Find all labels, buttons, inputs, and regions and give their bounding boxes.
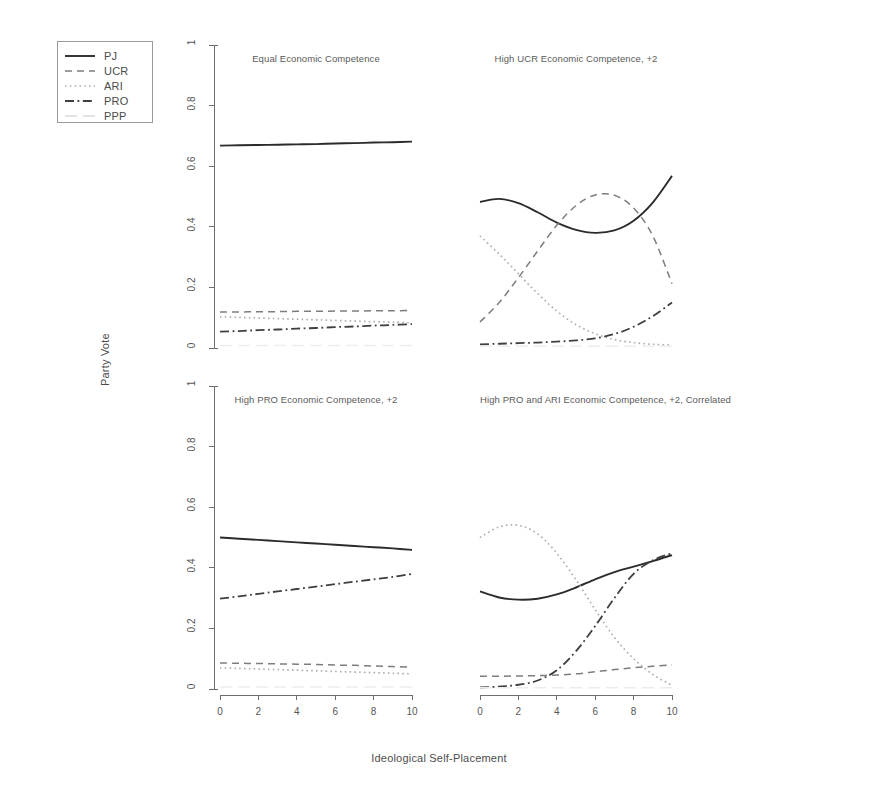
y-tick-label: 0.8 <box>186 431 197 457</box>
x-tick-label: 8 <box>620 706 648 717</box>
series-line-pj <box>480 176 672 233</box>
y-axis-label: Party Vote <box>99 333 111 386</box>
legend-item-ari: ARI <box>58 78 154 94</box>
x-tick-label: 10 <box>658 706 686 717</box>
series-line-ari <box>480 525 672 686</box>
legend-item-label: PPP <box>104 111 127 122</box>
series-line-pj <box>220 538 412 550</box>
plot-area <box>480 386 672 689</box>
series-line-ucr <box>480 665 672 677</box>
legend-line-icon <box>63 49 97 63</box>
plot-area <box>220 386 412 689</box>
legend-item-pj: PJ <box>58 48 154 64</box>
x-axis-label: Ideological Self-Placement <box>0 752 878 764</box>
series-line-pj <box>220 142 412 146</box>
series-line-pro <box>220 574 412 599</box>
y-axis <box>204 45 220 348</box>
series-line-pro <box>480 553 672 687</box>
legend-item-label: PJ <box>104 51 117 62</box>
panel-title: High PRO Economic Competence, +2 <box>220 394 412 405</box>
series-line-pro <box>480 303 672 345</box>
legend-line-icon <box>63 64 97 78</box>
y-tick-label: 1 <box>186 30 197 56</box>
plot-area <box>220 45 412 348</box>
figure-root: PJUCRARIPROPPP Equal Economic Competence… <box>0 0 878 795</box>
legend: PJUCRARIPROPPP <box>57 41 153 123</box>
legend-item-label: ARI <box>104 81 123 92</box>
chart-panel-3: High PRO Economic Competence, +2 <box>220 386 412 689</box>
chart-panel-2: High UCR Economic Competence, +2 <box>480 45 672 348</box>
x-tick-label: 8 <box>360 706 388 717</box>
legend-item-label: PRO <box>104 96 128 107</box>
legend-line-icon <box>63 94 97 108</box>
y-tick-label: 0 <box>186 674 197 700</box>
y-tick-label: 0.6 <box>186 492 197 518</box>
x-tick-label: 2 <box>244 706 272 717</box>
x-tick-label: 6 <box>581 706 609 717</box>
chart-panel-4: High PRO and ARI Economic Competence, +2… <box>480 386 672 689</box>
x-tick-label: 0 <box>466 706 494 717</box>
y-tick-label: 0.6 <box>186 151 197 177</box>
x-tick-label: 6 <box>321 706 349 717</box>
x-axis <box>220 693 412 707</box>
series-line-ucr <box>220 310 412 312</box>
legend-item-pro: PRO <box>58 93 154 109</box>
x-tick-label: 4 <box>543 706 571 717</box>
series-line-ari <box>220 317 412 323</box>
y-tick-label: 1 <box>186 371 197 397</box>
x-tick-label: 0 <box>206 706 234 717</box>
legend-item-ppp: PPP <box>58 108 154 124</box>
legend-line-icon <box>63 79 97 93</box>
y-tick-label: 0 <box>186 333 197 359</box>
y-tick-label: 0.8 <box>186 90 197 116</box>
y-tick-label: 0.2 <box>186 272 197 298</box>
plot-area <box>480 45 672 348</box>
x-tick-label: 10 <box>398 706 426 717</box>
y-tick-label: 0.4 <box>186 552 197 578</box>
panel-title: High UCR Economic Competence, +2 <box>480 53 672 64</box>
panel-title: High PRO and ARI Economic Competence, +2… <box>480 394 672 405</box>
legend-item-ucr: UCR <box>58 63 154 79</box>
y-tick-label: 0.2 <box>186 613 197 639</box>
panel-title: Equal Economic Competence <box>220 53 412 64</box>
x-tick-label: 2 <box>504 706 532 717</box>
legend-line-icon <box>63 109 97 123</box>
y-axis <box>204 386 220 689</box>
series-line-pj <box>480 555 672 600</box>
x-axis <box>480 693 672 707</box>
x-tick-label: 4 <box>283 706 311 717</box>
series-line-ari <box>220 668 412 674</box>
legend-item-label: UCR <box>104 66 128 77</box>
series-line-pro <box>220 324 412 332</box>
chart-panel-1: Equal Economic Competence <box>220 45 412 348</box>
series-line-ucr <box>220 663 412 667</box>
y-tick-label: 0.4 <box>186 211 197 237</box>
